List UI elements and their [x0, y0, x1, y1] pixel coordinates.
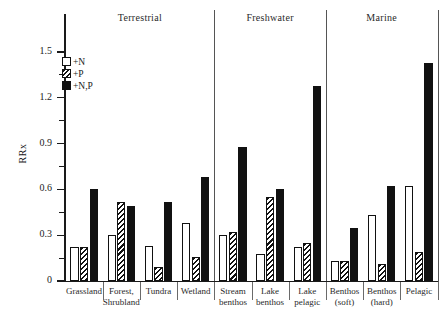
bar-P-forest-shrubland [117, 202, 125, 281]
habitat-separator [326, 10, 327, 282]
bar-N-benthos-hard [368, 215, 376, 281]
category-label-line1: Forest, [109, 286, 134, 296]
bar-N-lake-pelagic [294, 247, 302, 281]
category-separator [214, 282, 215, 300]
bar-P-benthos-hard [378, 264, 386, 281]
legend-item-np: +N,P [62, 80, 93, 91]
bar-N-grassland [70, 247, 78, 281]
legend-label-np: +N,P [73, 81, 93, 91]
bar-NP-grassland [90, 189, 98, 281]
bar-NP-benthos-soft [350, 228, 358, 281]
category-separator [289, 282, 290, 300]
y-tick-major [57, 97, 65, 98]
category-separator [103, 282, 104, 300]
y-tick-minor [59, 212, 65, 213]
category-separator [177, 282, 178, 300]
bar-P-tundra [154, 267, 162, 281]
habitat-separator [214, 10, 215, 282]
y-tick-minor [59, 258, 65, 259]
bar-P-stream-benthos [229, 232, 237, 281]
category-separator [363, 282, 364, 300]
bar-P-pelagic [415, 252, 423, 281]
y-tick-label: 0.6 [18, 182, 52, 193]
bar-N-wetland [182, 223, 190, 281]
y-tick-major [57, 189, 65, 190]
habitat-separator-end [438, 10, 439, 282]
bar-N-tundra [145, 246, 153, 281]
category-separator [326, 282, 327, 300]
category-label-line1: Tundra [146, 286, 172, 296]
habitat-header-marine: Marine [326, 12, 438, 23]
bar-P-lake-pelagic [303, 243, 311, 281]
category-label-line2: (hard) [357, 297, 406, 308]
category-label-line2: Shrubland [97, 297, 146, 308]
legend-swatch-solid-icon [62, 81, 71, 90]
bar-NP-wetland [201, 177, 209, 281]
bar-NP-lake-benthos [276, 189, 284, 281]
bar-N-forest-shrubland [108, 235, 116, 281]
category-separator-end [438, 282, 439, 300]
bar-N-pelagic [405, 186, 413, 281]
legend-item-p: +P [62, 68, 93, 79]
rrx-bar-chart: Terrestrial Freshwater Marine 00.30.60.9… [0, 0, 439, 325]
y-tick-label: 1.5 [18, 45, 52, 56]
y-tick-minor [59, 120, 65, 121]
legend-swatch-hatch-icon [62, 69, 71, 78]
bar-NP-lake-pelagic [313, 86, 321, 281]
bar-NP-benthos-hard [387, 186, 395, 281]
category-label-line1: Wetland [181, 286, 211, 296]
category-label-line1: Pelagic [406, 286, 433, 296]
bar-NP-stream-benthos [238, 147, 246, 281]
y-axis-title: RRx [17, 124, 28, 184]
y-axis [64, 14, 66, 281]
legend-label-p: +P [73, 69, 84, 79]
y-tick-major [57, 51, 65, 52]
y-tick-minor [59, 166, 65, 167]
y-tick-label: 0.3 [18, 228, 52, 239]
legend-item-n: +N [62, 56, 93, 67]
category-label-line1: Lake [261, 286, 279, 296]
category-label-line1: Benthos [367, 286, 397, 296]
bar-NP-tundra [164, 202, 172, 281]
y-tick-major [57, 143, 65, 144]
bar-NP-forest-shrubland [127, 206, 135, 281]
category-label-line1: Lake [298, 286, 316, 296]
y-tick-major [57, 280, 65, 281]
bar-P-lake-benthos [266, 197, 274, 281]
habitat-header-terrestrial: Terrestrial [66, 12, 215, 23]
bar-N-benthos-soft [331, 261, 339, 281]
legend: +N +P +N,P [62, 56, 93, 92]
y-tick-major [57, 235, 65, 236]
category-separator [140, 282, 141, 300]
y-tick-label: 1.2 [18, 91, 52, 102]
category-label-line1: Stream [220, 286, 246, 296]
bar-P-benthos-soft [340, 261, 348, 281]
bar-P-wetland [192, 257, 200, 281]
bar-N-lake-benthos [256, 254, 264, 281]
bar-NP-pelagic [424, 63, 432, 281]
legend-swatch-open-icon [62, 57, 71, 66]
category-label-line1: Benthos [330, 286, 360, 296]
category-separator [252, 282, 253, 300]
bar-N-stream-benthos [219, 235, 227, 281]
category-separator [400, 282, 401, 300]
legend-label-n: +N [73, 57, 85, 67]
habitat-header-freshwater: Freshwater [214, 12, 326, 23]
y-tick-label: 0 [18, 274, 52, 285]
bar-P-grassland [80, 247, 88, 281]
